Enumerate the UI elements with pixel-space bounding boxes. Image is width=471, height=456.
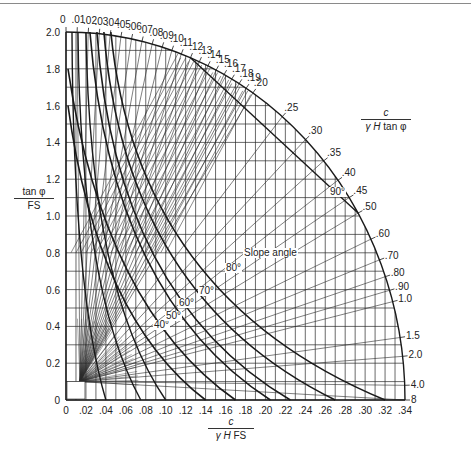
angle-label-40: 40° [153,320,170,330]
svg-text:.16: .16 [219,405,233,416]
svg-text:2.0: 2.0 [46,27,60,38]
outer-label-denominator: γ H tan φ [361,121,411,132]
stability-chart: 0.01.02.03.04.05.06.07.08.09.10.11.12.13… [0,0,471,456]
svg-text:.50: .50 [363,201,377,212]
y-axis-label: tan φ FS [14,186,54,211]
svg-text:.80: .80 [391,267,405,278]
svg-text:.28: .28 [338,405,352,416]
svg-text:0.8: 0.8 [46,248,60,259]
svg-text:1.2: 1.2 [46,174,60,185]
svg-text:0.2: 0.2 [46,358,60,369]
svg-text:.90: .90 [395,281,409,292]
slope-angle-label: Slope angle [243,248,298,258]
svg-text:.25: .25 [284,102,298,113]
outer-label-numerator: c [361,107,411,118]
svg-text:4.0: 4.0 [411,379,425,390]
y-label-numerator: tan φ [14,186,54,197]
svg-text:1.0: 1.0 [398,293,412,304]
svg-text:.30: .30 [308,125,322,136]
svg-text:.20: .20 [254,77,268,88]
svg-text:.20: .20 [258,405,272,416]
svg-text:.06: .06 [119,405,133,416]
svg-text:0: 0 [54,395,60,406]
svg-text:0.6: 0.6 [46,285,60,296]
angle-label-70: 70° [198,286,215,296]
svg-text:.26: .26 [318,405,332,416]
svg-text:.02: .02 [79,405,93,416]
svg-text:.35: .35 [327,147,341,158]
angle-label-60: 60° [178,298,195,308]
svg-text:.18: .18 [239,405,253,416]
svg-text:.40: .40 [342,167,356,178]
svg-text:.45: .45 [353,185,367,196]
svg-text:.14: .14 [199,405,213,416]
fraction-bar [14,198,54,199]
x-label-den-italic: γ H [216,430,231,441]
svg-text:.32: .32 [378,405,392,416]
angle-label-80: 80° [225,263,242,273]
svg-text:.22: .22 [278,405,292,416]
svg-text:.12: .12 [179,405,193,416]
x-axis-label: c γ H FS [208,416,254,441]
svg-text:2.0: 2.0 [409,349,423,360]
svg-text:.60: .60 [376,228,390,239]
svg-text:1.6: 1.6 [46,101,60,112]
y-label-denominator: FS [14,200,54,211]
svg-text:.34: .34 [398,405,412,416]
x-label-denominator: γ H FS [208,430,254,441]
svg-text:.70: .70 [385,250,399,261]
svg-text:.10: .10 [159,405,173,416]
svg-text:.24: .24 [298,405,312,416]
svg-text:1.5: 1.5 [406,330,420,341]
svg-text:.04: .04 [99,405,113,416]
svg-text:8: 8 [411,394,417,405]
svg-text:1.0: 1.0 [46,211,60,222]
svg-text:.08: .08 [139,405,153,416]
outer-scale-label: c γ H tan φ [361,107,411,132]
fraction-bar [361,119,411,120]
x-label-numerator: c [208,416,254,427]
svg-text:0: 0 [63,405,69,416]
svg-text:0: 0 [60,14,66,25]
svg-text:1.4: 1.4 [46,137,60,148]
outer-label-den-italic: γ H [366,121,381,132]
x-label-den-rest: FS [234,430,247,441]
svg-text:1.8: 1.8 [46,64,60,75]
angle-label-90: 90° [329,187,346,197]
outer-label-den-rest: tan φ [383,121,406,132]
svg-text:0.4: 0.4 [46,321,60,332]
svg-text:.30: .30 [358,405,372,416]
angle-label-50: 50° [165,311,182,321]
fraction-bar [208,428,254,429]
